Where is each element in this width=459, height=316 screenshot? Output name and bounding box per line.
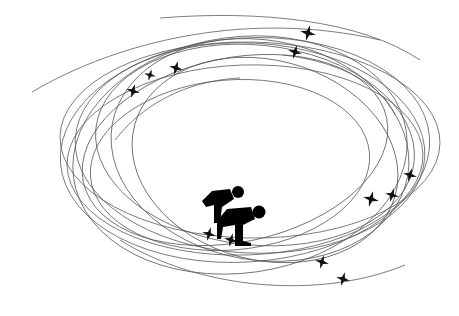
sparkle-icon	[401, 166, 418, 183]
sparkle-icon	[334, 270, 351, 287]
sparkle-icon	[124, 82, 141, 99]
sparkle-icon	[383, 186, 400, 203]
skating-illustration	[0, 0, 459, 316]
motion-trails	[32, 15, 442, 295]
sparkle-icon	[361, 189, 381, 209]
illustration	[0, 0, 459, 316]
skater-front-icon	[217, 206, 266, 247]
